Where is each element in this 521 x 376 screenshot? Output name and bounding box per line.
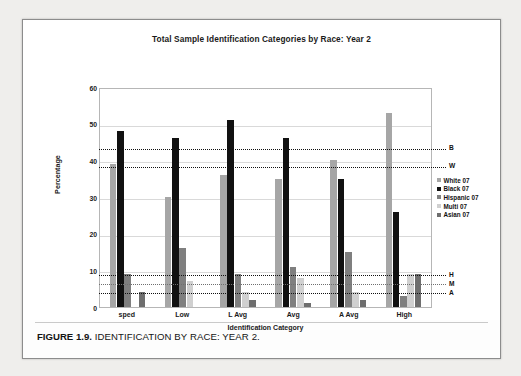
legend-swatch-icon bbox=[437, 178, 441, 182]
y-tick-label: 30 bbox=[71, 195, 97, 202]
reference-line-label: H bbox=[449, 272, 454, 278]
reference-line bbox=[99, 275, 446, 276]
y-tick-label: 10 bbox=[71, 268, 97, 275]
reference-line-label: A bbox=[449, 290, 454, 296]
legend-item: Asian 07 bbox=[437, 210, 499, 219]
caption-divider bbox=[35, 322, 488, 323]
y-tick-label: 0 bbox=[71, 305, 97, 312]
legend-swatch-icon bbox=[437, 204, 441, 208]
bar bbox=[117, 131, 124, 307]
bar bbox=[400, 296, 407, 307]
bar bbox=[139, 292, 146, 307]
bar bbox=[242, 292, 249, 307]
bar bbox=[415, 274, 422, 307]
legend-swatch-icon bbox=[437, 195, 441, 199]
y-tick-label: 20 bbox=[71, 231, 97, 238]
bar bbox=[165, 197, 172, 307]
x-axis-label: Identification Category bbox=[99, 324, 432, 331]
bar bbox=[290, 267, 297, 307]
reference-line-label: W bbox=[449, 163, 455, 169]
bar bbox=[360, 300, 367, 307]
bar bbox=[338, 179, 345, 307]
bar bbox=[220, 175, 227, 307]
reference-line-label: B bbox=[449, 145, 454, 151]
legend-item: Black 07 bbox=[437, 185, 499, 194]
legend-swatch-icon bbox=[437, 187, 441, 191]
bar bbox=[110, 164, 117, 307]
legend-label: White 07 bbox=[444, 177, 470, 184]
y-axis-ticks: 0102030405060 bbox=[67, 88, 97, 308]
bar bbox=[352, 292, 359, 307]
bar bbox=[297, 278, 304, 307]
reference-line bbox=[99, 149, 446, 150]
reference-line-label: M bbox=[449, 281, 455, 287]
legend-label: Asian 07 bbox=[444, 211, 470, 218]
reference-line bbox=[99, 284, 446, 285]
bar bbox=[249, 300, 256, 307]
legend-label: Black 07 bbox=[444, 185, 470, 192]
bar bbox=[407, 274, 414, 307]
chart-figure: Total Sample Identification Categories b… bbox=[23, 20, 500, 320]
legend-label: Multi 07 bbox=[444, 203, 467, 210]
reference-line bbox=[99, 167, 446, 168]
reference-line bbox=[99, 293, 446, 294]
bar bbox=[235, 274, 242, 307]
y-tick-label: 50 bbox=[71, 121, 97, 128]
bar bbox=[386, 113, 393, 307]
bar bbox=[345, 252, 352, 307]
legend-item: White 07 bbox=[437, 176, 499, 185]
bar bbox=[124, 274, 131, 307]
y-axis-label: Percentage bbox=[53, 135, 62, 215]
caption-figure-number: FIGURE 1.9. bbox=[37, 331, 92, 342]
bar bbox=[304, 303, 311, 307]
caption-text: IDENTIFICATION BY RACE: YEAR 2. bbox=[92, 331, 260, 342]
y-tick-label: 60 bbox=[71, 85, 97, 92]
scanned-page: Total Sample Identification Categories b… bbox=[0, 0, 521, 376]
bar bbox=[275, 179, 282, 307]
figure-sheet: Total Sample Identification Categories b… bbox=[22, 19, 501, 359]
legend-item: Hispanic 07 bbox=[437, 193, 499, 202]
legend-swatch-icon bbox=[437, 213, 441, 217]
bar bbox=[172, 138, 179, 307]
bar bbox=[179, 248, 186, 307]
chart-legend: White 07Black 07Hispanic 07Multi 07Asian… bbox=[437, 176, 499, 219]
chart-title: Total Sample Identification Categories b… bbox=[23, 34, 500, 44]
figure-caption: FIGURE 1.9. IDENTIFICATION BY RACE: YEAR… bbox=[37, 331, 487, 342]
legend-item: Multi 07 bbox=[437, 202, 499, 211]
y-tick-label: 40 bbox=[71, 158, 97, 165]
legend-label: Hispanic 07 bbox=[444, 194, 479, 201]
bar bbox=[283, 138, 290, 307]
